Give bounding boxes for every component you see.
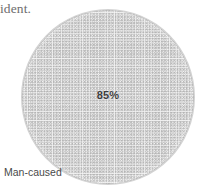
pie-chart: 85% <box>22 10 194 184</box>
pie-category-label-man-caused: Man-caused <box>4 166 62 179</box>
figure-container: ident. 85% Man-caused <box>0 0 204 192</box>
pie-slice-value-label: 85% <box>22 89 194 101</box>
